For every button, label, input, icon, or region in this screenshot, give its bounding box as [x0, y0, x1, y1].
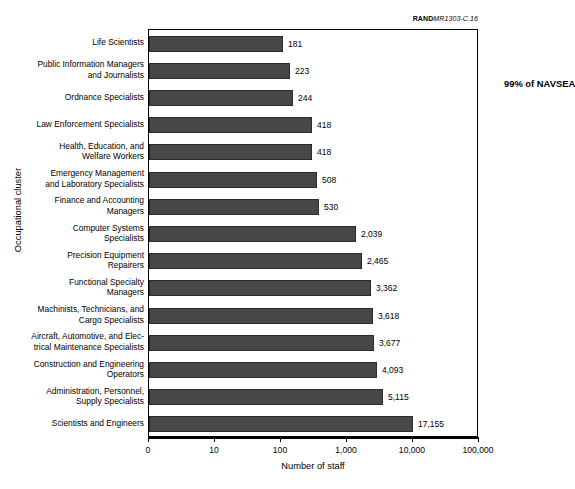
x-axis-tick-label: 10,000	[399, 445, 425, 455]
bar-row: 181	[149, 36, 477, 52]
category-label: Machinists, Technicians, andCargo Specia…	[20, 304, 144, 325]
bar	[149, 90, 293, 106]
bar-row: 244	[149, 90, 477, 106]
bar-value-label: 2,465	[367, 256, 388, 266]
bar-row: 2,465	[149, 253, 477, 269]
category-label-line: Supply Specialists	[20, 396, 144, 406]
bar	[149, 308, 373, 324]
category-label: Construction and EngineeringOperators	[20, 359, 144, 380]
plot-area: 1812232444184185085302,0392,4653,3623,61…	[148, 29, 478, 437]
category-label-line: Ordnance Specialists	[20, 92, 144, 102]
bar	[149, 226, 356, 242]
bar-row: 5,115	[149, 389, 477, 405]
bar-value-label: 244	[298, 93, 312, 103]
bar-row: 3,618	[149, 308, 477, 324]
bar-value-label: 3,677	[379, 338, 400, 348]
category-label-line: Functional Specialty	[20, 277, 144, 287]
x-axis-tick	[412, 437, 413, 442]
bar	[149, 253, 362, 269]
category-label-line: Cargo Specialists	[20, 315, 144, 325]
bar	[149, 63, 290, 79]
bar-row: 3,677	[149, 335, 477, 351]
x-axis-tick-label: 100	[273, 445, 287, 455]
bar-row: 3,362	[149, 280, 477, 296]
rand-brand-label: RAND	[413, 15, 434, 22]
category-label-line: Construction and Engineering	[20, 359, 144, 369]
bar-value-label: 2,039	[361, 229, 382, 239]
bar-value-label: 530	[324, 202, 338, 212]
bar-value-label: 5,115	[388, 392, 409, 402]
category-label-line: Welfare Workers	[20, 151, 144, 161]
x-axis-tick	[280, 437, 281, 442]
category-label-line: Law Enforcement Specialists	[20, 119, 144, 129]
x-axis-line	[148, 437, 478, 439]
x-axis-tick	[346, 437, 347, 442]
category-label: Finance and AccountingManagers	[20, 195, 144, 216]
x-axis-tick	[214, 437, 215, 442]
category-label-line: and Journalists	[20, 70, 144, 80]
category-label-line: Specialists	[20, 233, 144, 243]
annotation-99-percent-navsea: 99% of NAVSEA	[504, 78, 575, 89]
category-label: Public Information Managersand Journalis…	[20, 59, 144, 80]
category-label-line: Precision Equipment	[20, 250, 144, 260]
bar-value-label: 508	[322, 175, 336, 185]
category-label-line: Finance and Accounting	[20, 195, 144, 205]
bar-value-label: 418	[317, 147, 331, 157]
category-label-line: trical Maintenance Specialists	[20, 342, 144, 352]
bar-value-label: 17,155	[418, 419, 444, 429]
category-label: Law Enforcement Specialists	[20, 119, 144, 129]
bar-row: 17,155	[149, 416, 477, 432]
x-axis-tick-label: 0	[146, 445, 151, 455]
x-axis-tick	[478, 437, 479, 442]
bar-row: 223	[149, 63, 477, 79]
x-axis-tick-label: 100,000	[462, 445, 493, 455]
bar-value-label: 418	[317, 120, 331, 130]
category-label-line: Emergency Management	[20, 168, 144, 178]
bar	[149, 144, 312, 160]
category-label-line: Computer Systems	[20, 223, 144, 233]
category-label-line: Operators	[20, 369, 144, 379]
bar	[149, 416, 413, 432]
category-label-line: Life Scientists	[20, 37, 144, 47]
bar-value-label: 3,362	[376, 283, 397, 293]
bar-value-label: 3,618	[378, 311, 399, 321]
category-label: Precision EquipmentRepairers	[20, 250, 144, 271]
bar-value-label: 223	[295, 66, 309, 76]
category-label-line: Health, Education, and	[20, 141, 144, 151]
bar-row: 530	[149, 199, 477, 215]
category-label: Aircraft, Automotive, and Elec-trical Ma…	[20, 331, 144, 352]
category-label-line: Aircraft, Automotive, and Elec-	[20, 331, 144, 341]
bar-value-label: 4,093	[382, 365, 403, 375]
category-label-line: Scientists and Engineers	[20, 418, 144, 428]
x-axis-tick-label: 1,000	[335, 445, 357, 455]
category-label-line: Managers	[20, 206, 144, 216]
category-label-line: Administration, Personnel,	[20, 386, 144, 396]
x-axis-title: Number of staff	[148, 461, 478, 471]
x-axis-tick-label: 10	[209, 445, 219, 455]
category-label: Health, Education, andWelfare Workers	[20, 141, 144, 162]
bar-row: 2,039	[149, 226, 477, 242]
category-label: Scientists and Engineers	[20, 418, 144, 428]
bar	[149, 280, 371, 296]
category-label: Emergency Managementand Laboratory Speci…	[20, 168, 144, 189]
bars-layer: 1812232444184185085302,0392,4653,3623,61…	[149, 30, 477, 436]
category-axis-labels: Life ScientistsPublic Information Manage…	[20, 29, 144, 437]
category-label-line: Public Information Managers	[20, 59, 144, 69]
category-label: Computer SystemsSpecialists	[20, 223, 144, 244]
rand-document-label: MR1303-C.16	[433, 15, 478, 22]
category-label: Functional SpecialtyManagers	[20, 277, 144, 298]
bar-row: 4,093	[149, 362, 477, 378]
bar	[149, 36, 283, 52]
bar	[149, 335, 374, 351]
category-label-line: Repairers	[20, 260, 144, 270]
bar-row: 418	[149, 144, 477, 160]
category-label-line: Managers	[20, 287, 144, 297]
rand-source-credit: RANDMR1303-C.16	[413, 15, 478, 22]
category-label: Life Scientists	[20, 37, 144, 47]
bar-row: 508	[149, 172, 477, 188]
bar-value-label: 181	[288, 39, 302, 49]
category-label: Administration, Personnel,Supply Special…	[20, 386, 144, 407]
bar	[149, 362, 377, 378]
category-label-line: Machinists, Technicians, and	[20, 304, 144, 314]
